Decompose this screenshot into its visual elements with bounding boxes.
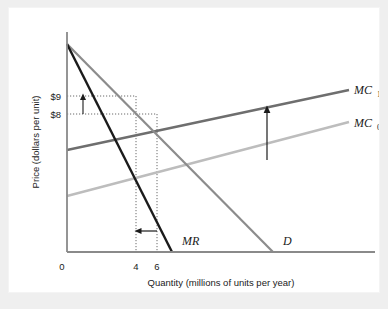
curve-label-demand: D xyxy=(282,234,292,248)
figure-plate: $9 $8 0 4 6 Quantity (millions of units … xyxy=(9,8,379,292)
curve-label-mc0: MC xyxy=(353,116,373,130)
x-tick-label-4: 4 xyxy=(133,261,138,272)
x-tick-label-6: 6 xyxy=(154,261,159,272)
curve-label-mc1: MC xyxy=(353,83,373,97)
price-label-8: $8 xyxy=(50,109,61,120)
x-axis-title: Quantity (millions of units per year) xyxy=(148,277,295,288)
figure-root: $9 $8 0 4 6 Quantity (millions of units … xyxy=(0,0,388,309)
plot-background xyxy=(9,8,379,292)
curve-label-mc1-subscript: 1 xyxy=(377,90,379,99)
origin-label: 0 xyxy=(59,261,64,272)
price-label-9: $9 xyxy=(50,91,61,102)
curve-label-mc0-subscript: 0 xyxy=(377,123,379,132)
y-axis-title: Price (dollars per unit) xyxy=(30,96,41,189)
economics-chart: $9 $8 0 4 6 Quantity (millions of units … xyxy=(9,8,379,292)
curve-label-mr: MR xyxy=(181,234,200,248)
